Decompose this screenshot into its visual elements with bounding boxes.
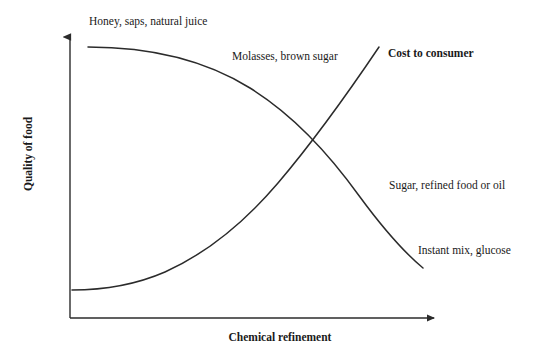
series-line-cost-to-consumer	[72, 47, 379, 290]
annotation-molasses-brown-sugar: Molasses, brown sugar	[232, 51, 338, 63]
annotation-instant-mix-glucose: Instant mix, glucose	[418, 245, 511, 257]
annotation-honey-saps-natural-juice: Honey, saps, natural juice	[89, 16, 207, 28]
series-line-quality-of-food	[88, 47, 423, 268]
x-axis-label: Chemical refinement	[150, 331, 410, 343]
chart-container: Honey, saps, natural juice Molasses, bro…	[0, 0, 555, 353]
annotation-cost-to-consumer: Cost to consumer	[388, 48, 474, 60]
annotation-sugar-refined-food-or-oil: Sugar, refined food or oil	[389, 180, 505, 192]
y-axis-label: Quality of food	[22, 94, 34, 214]
